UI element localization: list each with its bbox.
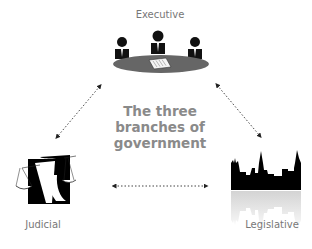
title-line-1: The three: [100, 103, 220, 119]
diagram-title: The three branches of government: [100, 103, 220, 151]
legislative-label: Legislative: [237, 219, 307, 230]
judicial-label: Judicial: [13, 219, 73, 230]
title-line-3: government: [100, 135, 220, 151]
scales-of-justice-icon: [16, 155, 76, 204]
cabinet-meeting-icon: [113, 31, 209, 74]
connector-executive-judicial: [57, 86, 100, 137]
connector-executive-legislative: [217, 85, 260, 136]
title-line-2: branches of: [100, 119, 220, 135]
executive-label: Executive: [120, 9, 200, 20]
